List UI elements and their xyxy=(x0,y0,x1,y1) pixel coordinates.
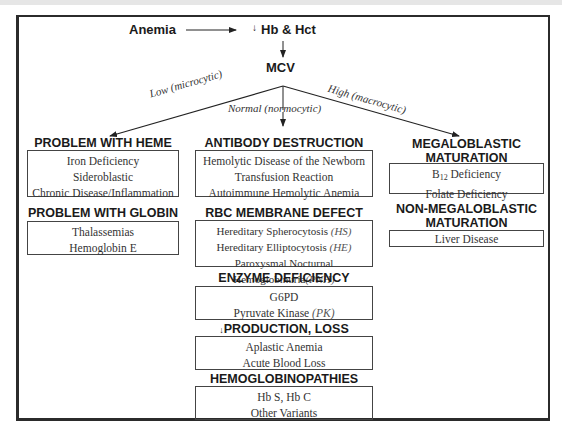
list-item: Thalassemias xyxy=(28,224,178,240)
list-item: Pyruvate Kinase (PK) xyxy=(196,305,372,321)
list-item: Transfusion Reaction xyxy=(196,169,372,185)
list-item: Aplastic Anemia xyxy=(196,339,372,355)
megaloblastic-heading: MEGALOBLASTIC MATURATION xyxy=(389,137,544,165)
list-item: Hb S, Hb C xyxy=(196,389,372,405)
list-item: Iron Deficiency xyxy=(28,153,178,169)
list-item: Hereditary Spherocytosis (HS) xyxy=(196,223,372,239)
list-item: Hemolytic Disease of the Newborn xyxy=(196,153,372,169)
list-item: Autoimmune Hemolytic Anemia xyxy=(196,185,372,201)
list-item: Acute Blood Loss xyxy=(196,355,372,371)
non-megaloblastic-heading: NON-MEGALOBLASTIC MATURATION xyxy=(389,202,544,230)
globin-heading: PROBLEM WITH GLOBIN xyxy=(27,206,179,220)
membrane-heading: RBC MEMBRANE DEFECT xyxy=(195,206,373,220)
enzyme-heading: ENZYME DEFICIENCY xyxy=(195,271,373,285)
production-box: Aplastic Anemia Acute Blood Loss xyxy=(195,336,373,370)
globin-box: Thalassemias Hemoglobin E xyxy=(27,221,179,255)
non-megaloblastic-box: Liver Disease xyxy=(389,230,544,247)
enzyme-box: G6PD Pyruvate Kinase (PK) xyxy=(195,286,373,320)
list-item: G6PD xyxy=(196,289,372,305)
list-item: Liver Disease xyxy=(390,231,543,247)
list-item: Hereditary Elliptocytosis (HE) xyxy=(196,239,372,255)
list-item: Hemoglobin E xyxy=(28,240,178,256)
list-item: Other Variants xyxy=(196,405,372,421)
list-item: Folate Deficiency xyxy=(390,186,543,202)
hb-hct-label: Hb & Hct xyxy=(261,22,316,37)
hemoglobinopathies-box: Hb S, Hb C Other Variants xyxy=(195,386,373,420)
membrane-box: Hereditary Spherocytosis (HS) Hereditary… xyxy=(195,220,373,267)
anemia-label: Anemia xyxy=(129,22,176,37)
antibody-box: Hemolytic Disease of the Newborn Transfu… xyxy=(195,150,373,197)
branch-normal-label: Normal (normocytic) xyxy=(228,102,321,114)
antibody-heading: ANTIBODY DESTRUCTION xyxy=(195,136,373,150)
production-heading: ↓PRODUCTION, LOSS xyxy=(195,322,373,337)
list-item: B12 Deficiency xyxy=(390,166,543,186)
hemoglobinopathies-heading: HEMOGLOBINOPATHIES xyxy=(195,372,373,386)
list-item: Chronic Disease/Inflammation xyxy=(28,185,178,201)
mcv-label: MCV xyxy=(266,60,295,75)
megaloblastic-box: B12 Deficiency Folate Deficiency xyxy=(389,163,544,194)
decrease-arrow-icon: ↓ xyxy=(252,22,257,33)
list-item: Sideroblastic xyxy=(28,169,178,185)
heme-heading: PROBLEM WITH HEME xyxy=(27,136,179,150)
heme-box: Iron Deficiency Sideroblastic Chronic Di… xyxy=(27,150,179,197)
